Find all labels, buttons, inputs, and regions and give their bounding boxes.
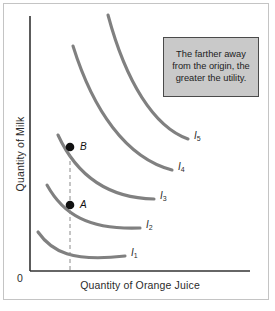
point-b-label: B [80,141,87,152]
indifference-curve-i2 [47,185,140,228]
callout-text: The farther away from the origin, the gr… [164,49,258,85]
curve-label-i5: I5 [194,130,201,141]
curve-label-i2-sub: 2 [149,224,153,231]
curve-label-i2: I2 [146,219,153,230]
x-axis-title: Quantity of Orange Juice [30,279,250,291]
indifference-curve-i4 [73,46,172,170]
curve-label-i4-sub: 4 [181,166,185,173]
indifference-curve-figure: The farther away from the origin, the gr… [0,0,275,311]
curve-label-i1-sub: 1 [134,252,138,259]
indifference-curve-i1 [38,232,125,258]
curve-label-i5-sub: 5 [197,135,201,142]
point-a-label: A [80,199,87,210]
point-a-marker [66,201,75,210]
curve-label-i3-sub: 3 [163,195,167,202]
curve-label-i1: I1 [131,247,138,258]
y-axis-title: Quantity of Milk [14,94,26,214]
callout-box: The farther away from the origin, the gr… [163,37,259,97]
curve-label-i3: I3 [160,190,167,201]
point-b-marker [66,143,75,152]
origin-label: 0 [17,272,23,284]
curve-label-i4: I4 [178,161,185,172]
